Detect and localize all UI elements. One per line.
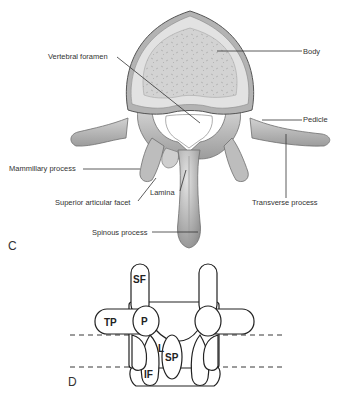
label-l: L	[158, 343, 164, 354]
label-transverse-process: Transverse process	[252, 199, 318, 207]
label-spinous-process: Spinous process	[92, 229, 147, 237]
label-vertebral-foramen: Vertebral foramen	[48, 53, 108, 61]
label-mammillary-process: Mammillary process	[9, 165, 76, 173]
label-pedicle: Pedicle	[303, 116, 328, 124]
panel-letter-c: C	[8, 240, 17, 252]
label-lamina: Lamina	[150, 189, 175, 197]
label-p: P	[141, 316, 148, 327]
vertebral-body	[126, 11, 253, 114]
label-sf: SF	[133, 274, 146, 285]
label-if: IF	[144, 369, 153, 380]
label-tp: TP	[104, 317, 117, 328]
panel-letter-d: D	[68, 376, 77, 388]
vertebra-schematic	[70, 264, 282, 386]
label-sp: SP	[165, 352, 179, 363]
label-body: Body	[303, 48, 320, 56]
label-superior-articular-facet: Superior articular facet	[55, 199, 130, 207]
